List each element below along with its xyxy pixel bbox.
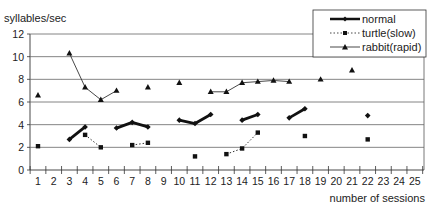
square-marker [193,154,197,158]
diamond-marker [365,113,371,119]
square-icon [343,31,347,35]
square-marker [303,134,307,138]
series-normal [67,106,371,142]
y-tick-label: 10 [12,51,24,63]
square-marker [224,152,228,156]
x-tick-label: 6 [114,175,120,187]
triangle-marker [114,87,120,92]
x-tick-label: 20 [330,175,342,187]
x-tick-label: 21 [346,175,358,187]
square-marker [36,144,40,148]
triangle-marker [35,92,41,97]
y-axis-label: syllables/sec [4,12,67,24]
legend: normal turtle(slow) rabbit(rapid) [313,10,426,57]
y-tick-label: 0 [18,164,24,176]
x-tick-label: 4 [82,175,88,187]
x-axis-ticks: 1234567891011121314151617181920212223242… [30,166,423,187]
x-tick-label: 3 [66,175,72,187]
legend-item-rabbit: rabbit(rapid) [362,41,421,53]
y-tick-label: 12 [12,28,24,40]
x-tick-label: 2 [51,175,57,187]
line-chart: 024681012 123456789101112131415161718192… [0,0,436,213]
triangle-marker [349,67,355,72]
y-tick-label: 8 [18,73,24,85]
legend-item-normal: normal [362,13,396,25]
triangle-marker [82,84,88,89]
triangle-marker [208,89,214,94]
y-tick-label: 4 [18,119,24,131]
square-marker [99,145,103,149]
triangle-marker [66,50,72,55]
x-tick-label: 13 [221,175,233,187]
x-tick-label: 14 [236,175,248,187]
y-tick-label: 6 [18,96,24,108]
x-axis-label: number of sessions [330,192,426,204]
square-marker [256,130,260,134]
series-rabbit-rapid- [35,50,355,102]
x-tick-label: 19 [315,175,327,187]
x-tick-label: 1 [35,175,41,187]
triangle-marker [223,89,229,94]
square-marker [146,141,150,145]
x-tick-label: 10 [173,175,185,187]
x-tick-label: 8 [145,175,151,187]
triangle-marker [318,76,324,81]
square-marker [83,133,87,137]
x-tick-label: 18 [299,175,311,187]
series-turtle-slow- [36,130,370,158]
x-tick-label: 9 [161,175,167,187]
square-marker [366,137,370,141]
y-axis-ticks: 024681012 [12,28,30,176]
x-tick-label: 7 [129,175,135,187]
square-marker [240,146,244,150]
legend-item-turtle: turtle(slow) [362,27,416,39]
x-tick-label: 24 [393,175,405,187]
x-tick-label: 11 [190,175,201,187]
x-tick-label: 5 [98,175,104,187]
x-tick-label: 12 [205,175,217,187]
triangle-marker [145,84,151,89]
data-series [35,50,371,159]
x-tick-label: 23 [378,175,390,187]
triangle-marker [271,77,277,82]
x-tick-label: 15 [252,175,264,187]
x-tick-label: 16 [268,175,280,187]
diamond-marker [177,117,183,123]
triangle-marker [98,97,104,102]
y-tick-label: 2 [18,141,24,153]
x-tick-label: 22 [362,175,374,187]
x-tick-label: 17 [283,175,295,187]
x-tick-label: 25 [409,175,421,187]
square-marker [130,143,134,147]
triangle-marker [176,80,182,85]
